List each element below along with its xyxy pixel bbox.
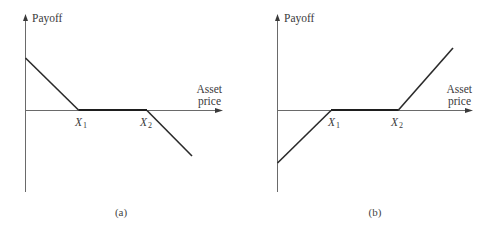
x-axis-label-line2-b: price [448, 95, 471, 108]
strike-label-x1-a: X 1 [74, 116, 87, 130]
caption-a: (a) [115, 206, 128, 219]
strike-label-x2-main-a: X [139, 116, 148, 128]
x-axis-label-line1-b: Asset [446, 83, 472, 95]
caption-b: (b) [369, 206, 382, 219]
strike-label-x2-sub-b: 2 [399, 121, 403, 130]
strike-label-x1-sub-b: 1 [336, 121, 340, 130]
y-axis-label-b: Payoff [284, 12, 315, 25]
strike-label-x2-a: X 2 [139, 116, 152, 130]
strike-label-x1-main-b: X [327, 116, 336, 128]
y-axis-label-a: Payoff [32, 12, 63, 25]
x-axis-label-line1-a: Asset [196, 83, 222, 95]
y-axis-arrow-a [23, 14, 28, 21]
x-axis-arrow-a [215, 108, 223, 113]
panel-b: Payoff Asset price X 1 X 2 (b) [275, 12, 473, 219]
panel-a: Payoff Asset price X 1 X 2 (a) [23, 12, 223, 219]
strike-label-x1-sub-a: 1 [83, 121, 87, 130]
x-axis-label-line2-a: price [198, 95, 221, 108]
strike-label-x1-b: X 1 [327, 116, 340, 130]
x-axis-arrow-b [465, 108, 473, 113]
payoff-segment-above-x2-b [398, 48, 453, 111]
strike-label-x2-sub-a: 2 [148, 121, 152, 130]
payoff-diagrams: Payoff Asset price X 1 X 2 (a) Payoff As… [0, 0, 492, 231]
strike-label-x2-b: X 2 [390, 116, 403, 130]
strike-label-x2-main-b: X [390, 116, 399, 128]
y-axis-arrow-b [275, 14, 280, 21]
strike-label-x1-main-a: X [74, 116, 83, 128]
payoff-segment-below-x1-b [278, 111, 332, 164]
payoff-segment-below-x1-a [26, 58, 80, 111]
payoff-segment-above-x2-a [147, 111, 192, 157]
